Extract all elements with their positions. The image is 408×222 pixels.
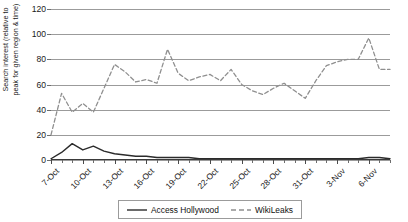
y-tick-label-80: 80 <box>6 54 46 64</box>
y-tick-label-120: 120 <box>6 4 46 14</box>
x-tick-27-Oct <box>263 160 264 163</box>
plot-area: 020406080100120 7-Oct10-Oct13-Oct16-Oct1… <box>51 9 390 160</box>
x-tick-17-Oct <box>157 160 158 163</box>
x-tick-15-Oct <box>136 160 137 163</box>
x-tick-21-Oct <box>199 160 200 163</box>
x-tick-11-Oct <box>93 160 94 163</box>
x-tick-16-Oct <box>146 160 147 164</box>
x-axis-line <box>51 159 390 160</box>
x-tick-9-Oct <box>72 160 73 163</box>
x-tick-20-Oct <box>189 160 190 163</box>
x-tick-10-Oct <box>83 160 84 164</box>
x-tick-label-10-Oct: 10-Oct <box>68 166 93 191</box>
x-tick-29-Oct <box>284 160 285 163</box>
x-tick-label-31-Oct: 31-Oct <box>290 166 315 191</box>
legend-item-access-hollywood: Access Hollywood <box>127 205 219 215</box>
x-tick-label-6-Nov: 6-Nov <box>356 166 379 189</box>
x-tick-5-Nov <box>358 160 359 163</box>
x-tick-label-16-Oct: 16-Oct <box>132 166 157 191</box>
y-tick-label-40: 40 <box>6 105 46 115</box>
x-tick-13-Oct <box>115 160 116 164</box>
x-tick-4-Nov <box>348 160 349 163</box>
legend-swatch-solid <box>127 207 147 213</box>
x-tick-31-Oct <box>305 160 306 164</box>
data-series-group <box>51 9 390 160</box>
x-tick-19-Oct <box>178 160 179 164</box>
legend-item-wikileaks: WikiLeaks <box>231 205 293 215</box>
x-tick-label-28-Oct: 28-Oct <box>259 166 284 191</box>
x-tick-7-Oct <box>51 160 52 164</box>
x-tick-12-Oct <box>104 160 105 163</box>
series-line-wikileaks <box>51 38 390 135</box>
x-tick-label-3-Nov: 3-Nov <box>324 166 347 189</box>
x-tick-26-Oct <box>252 160 253 163</box>
x-tick-8-Nov <box>390 160 391 163</box>
search-interest-line-chart: Search interest (relative to peak for gi… <box>0 0 408 222</box>
y-tick-label-0: 0 <box>6 155 46 165</box>
y-tick-label-20: 20 <box>6 130 46 140</box>
x-tick-3-Nov <box>337 160 338 164</box>
x-tick-8-Oct <box>62 160 63 163</box>
x-tick-30-Oct <box>295 160 296 163</box>
series-line-access-hollywood <box>51 144 390 159</box>
y-tick-label-60: 60 <box>6 80 46 90</box>
legend-label-access-hollywood: Access Hollywood <box>151 205 219 215</box>
legend-swatch-dashed <box>231 207 251 213</box>
x-tick-label-19-Oct: 19-Oct <box>163 166 188 191</box>
x-tick-1-Nov <box>316 160 317 163</box>
x-tick-23-Oct <box>221 160 222 163</box>
x-tick-label-22-Oct: 22-Oct <box>195 166 220 191</box>
x-tick-18-Oct <box>168 160 169 163</box>
x-tick-7-Nov <box>379 160 380 163</box>
x-tick-6-Nov <box>369 160 370 164</box>
x-tick-label-7-Oct: 7-Oct <box>40 166 62 188</box>
legend-label-wikileaks: WikiLeaks <box>255 205 293 215</box>
x-tick-label-13-Oct: 13-Oct <box>100 166 125 191</box>
x-tick-14-Oct <box>125 160 126 163</box>
y-tick-label-100: 100 <box>6 29 46 39</box>
x-tick-28-Oct <box>273 160 274 164</box>
x-tick-22-Oct <box>210 160 211 164</box>
x-tick-label-25-Oct: 25-Oct <box>227 166 252 191</box>
x-tick-25-Oct <box>242 160 243 164</box>
chart-legend: Access Hollywood WikiLeaks <box>118 200 302 219</box>
x-tick-2-Nov <box>326 160 327 163</box>
x-tick-24-Oct <box>231 160 232 163</box>
